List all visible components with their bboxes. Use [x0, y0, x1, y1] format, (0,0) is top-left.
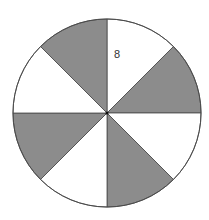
- sector-label: 8: [114, 48, 120, 60]
- fraction-circle-diagram: 8: [0, 0, 209, 220]
- center-point: [106, 112, 109, 115]
